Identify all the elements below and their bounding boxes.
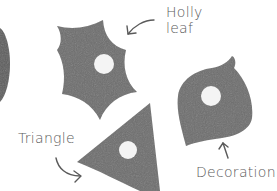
- holly-leaf-arrow-icon: [127, 20, 154, 34]
- triangle-label: Triangle: [18, 130, 75, 146]
- holly-leaf-label-line2: leaf: [166, 20, 203, 36]
- triangle-shape: [77, 103, 160, 191]
- triangle-hole: [119, 141, 137, 159]
- holly-leaf-hole: [94, 54, 114, 74]
- shapes-illustration: [0, 0, 277, 191]
- decoration-arrow-icon: [219, 143, 228, 158]
- decoration-label: Decoration: [196, 164, 276, 180]
- triangle-arrow-icon: [56, 158, 81, 182]
- pinecone-partial-shape: [0, 28, 10, 102]
- decoration-hole: [201, 86, 221, 106]
- holly-leaf-label-line1: Holly: [166, 4, 203, 20]
- holly-leaf-label: Holly leaf: [166, 4, 203, 36]
- holly-leaf-shape: [57, 20, 137, 120]
- decoration-shape: [178, 56, 253, 146]
